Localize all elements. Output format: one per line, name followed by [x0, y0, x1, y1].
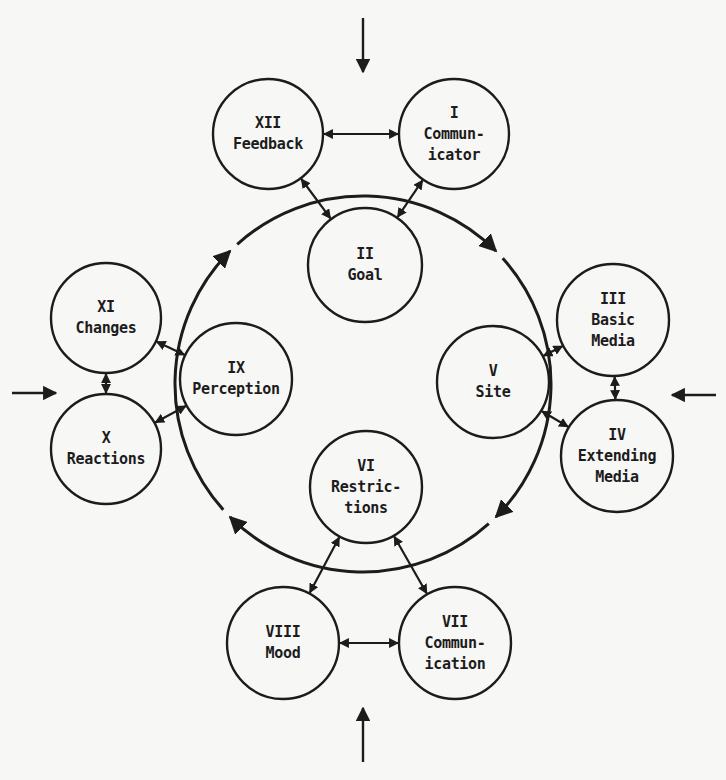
node-title: Reactions: [67, 449, 146, 470]
link-VI-VII: [394, 537, 427, 594]
link-X-IX: [155, 406, 186, 422]
node-title: Extending Media: [578, 446, 657, 488]
node-title: Changes: [75, 318, 136, 339]
node-title: Commun- ication: [424, 633, 485, 675]
node-numeral: VII: [424, 612, 485, 633]
link-III-IV: [615, 377, 616, 399]
node-label-xi: XIChanges: [75, 297, 136, 339]
node-numeral: X: [67, 428, 146, 449]
node-label-viii: VIIIMood: [266, 622, 301, 664]
node-label-x: XReactions: [67, 428, 146, 470]
node-label-v: VSite: [476, 361, 511, 403]
node-title: Perception: [192, 379, 279, 400]
external-input-arrows: [12, 18, 716, 762]
node-numeral: II: [348, 244, 383, 265]
node-numeral: XI: [75, 297, 136, 318]
node-label-iii: IIIBasic Media: [591, 289, 635, 352]
node-label-ii: IIGoal: [348, 244, 383, 286]
node-title: Site: [476, 382, 511, 403]
node-numeral: IV: [578, 425, 657, 446]
node-title: Feedback: [233, 134, 303, 155]
node-label-xii: XIIFeedback: [233, 113, 303, 155]
node-title: Mood: [266, 643, 301, 664]
communication-cycle-diagram: [0, 0, 726, 780]
node-numeral: VIII: [266, 622, 301, 643]
node-title: Goal: [348, 265, 383, 286]
node-title: Commun- icator: [423, 124, 484, 166]
node-title: Restric- tions: [331, 477, 401, 519]
node-label-ix: IXPerception: [192, 358, 279, 400]
node-numeral: VI: [331, 456, 401, 477]
node-numeral: IX: [192, 358, 279, 379]
node-numeral: I: [423, 103, 484, 124]
node-circles: [51, 79, 673, 699]
node-label-i: ICommun- icator: [423, 103, 484, 166]
node-title: Basic Media: [591, 310, 635, 352]
node-label-vi: VIRestric- tions: [331, 456, 401, 519]
node-numeral: V: [476, 361, 511, 382]
node-numeral: III: [591, 289, 635, 310]
node-label-iv: IVExtending Media: [578, 425, 657, 488]
node-numeral: XII: [233, 113, 303, 134]
node-label-vii: VIICommun- ication: [424, 612, 485, 675]
